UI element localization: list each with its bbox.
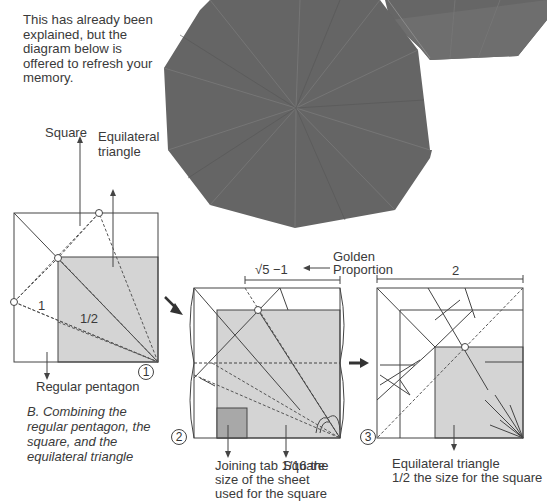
arrow-2-to-3-icon	[349, 358, 369, 368]
sqrt5-minus-1-label: √5 −1	[255, 262, 288, 277]
joining-tab-label-3: used for the square	[215, 486, 327, 501]
step-number-3: 3	[360, 429, 376, 445]
eq-triangle-label-1: Equilateral triangle	[392, 456, 500, 471]
label-square-1: Square	[45, 125, 87, 140]
step-number-2: 2	[171, 429, 187, 445]
label-equilateral-1a: Equilateral	[98, 129, 159, 144]
golden-label-2: Proportion	[333, 262, 393, 277]
label-regular-pentagon: Regular pentagon	[36, 379, 139, 394]
label-equilateral-1b: triangle	[98, 144, 141, 159]
step1-diagram	[11, 136, 159, 380]
origami-photo	[164, 0, 547, 228]
figure-caption: B. Combining the regular pentagon, the s…	[27, 404, 162, 464]
eq-triangle-label-2: 1/2 the size for the square	[392, 470, 542, 485]
step-number-1: 1	[138, 364, 154, 380]
step3-diagram	[377, 275, 523, 451]
joining-tab-label-2: size of the sheet	[215, 472, 310, 487]
arrow-1-to-2-icon	[165, 297, 183, 315]
step2-diagram	[190, 265, 344, 458]
label-square-2: Square	[283, 458, 325, 473]
ratio-one-label: 1	[38, 298, 45, 313]
ratio-half-label: 1/2	[80, 311, 98, 326]
width-2-label: 2	[452, 263, 459, 278]
